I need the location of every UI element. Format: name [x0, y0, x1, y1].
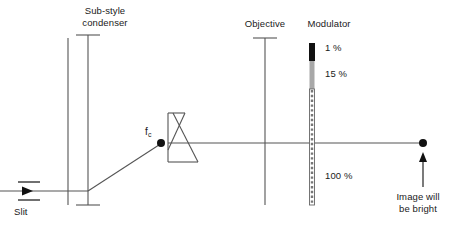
prism-hypotenuse: [173, 113, 198, 162]
objective-label: Objective: [235, 18, 295, 30]
condenser-label: Sub-style condenser: [60, 5, 150, 28]
focal-point-dot: [157, 139, 165, 147]
condenser-label-line2: condenser: [60, 17, 150, 29]
slit-label: Slit: [14, 206, 28, 218]
diagram-canvas: [0, 0, 451, 242]
modulator-1pct-label: 1 %: [325, 42, 342, 54]
modulator-100pct-label: 100 %: [325, 170, 352, 182]
image-result-line1: Image will: [386, 191, 450, 203]
modulator-label: Modulator: [296, 18, 362, 30]
image-point-dot: [419, 139, 427, 147]
image-result-label: Image will be bright: [386, 191, 450, 214]
focal-point-subscript: c: [148, 131, 152, 138]
condenser-label-line1: Sub-style: [60, 5, 150, 17]
image-result-line2: be bright: [386, 203, 450, 215]
condenser-to-prism-ray: [88, 143, 162, 191]
modulator-zone-opaque: [309, 43, 315, 61]
focal-point-label: fc: [145, 126, 152, 139]
image-pointer-arrowhead: [419, 152, 427, 162]
illumination-arrowhead: [22, 187, 33, 196]
optical-diagram: Sub-style condenser Objective Modulator …: [0, 0, 451, 242]
modulator-15pct-label: 15 %: [325, 68, 347, 80]
modulator-zone-gray: [310, 61, 315, 89]
